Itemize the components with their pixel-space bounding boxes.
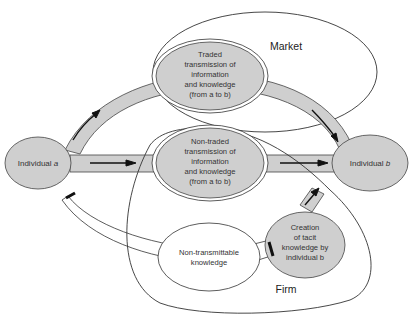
non-traded-line-2: transmission of bbox=[184, 147, 236, 156]
traded-line-5: (from a to b) bbox=[189, 90, 231, 99]
non-traded-line-5: (from a to b) bbox=[189, 177, 231, 186]
traded-line-3: information bbox=[191, 70, 229, 79]
knowledge-transmission-diagram: Individual a Individual b Traded transmi… bbox=[0, 0, 411, 323]
node-individual-b: Individual b bbox=[332, 135, 408, 191]
individual-b-label: Individual b bbox=[350, 159, 391, 168]
non-traded-line-1: Non-traded bbox=[191, 137, 229, 146]
tacit-line-2: of tacit bbox=[294, 233, 317, 242]
traded-line-1: Traded bbox=[198, 50, 222, 59]
node-non-transmittable-knowledge: Non-transmittable knowledge bbox=[158, 223, 260, 291]
firm-label: Firm bbox=[276, 283, 297, 295]
individual-a-label: Individual a bbox=[18, 159, 59, 168]
non-transmittable-line-1: Non-transmittable bbox=[179, 248, 239, 257]
tacit-line-3: knowledge by bbox=[282, 243, 329, 252]
non-transmittable-line-2: knowledge bbox=[191, 258, 227, 267]
market-label: Market bbox=[270, 40, 302, 52]
tacit-line-1: Creation bbox=[291, 223, 320, 232]
node-individual-a: Individual a bbox=[5, 137, 71, 189]
traded-line-4: and knowledge bbox=[184, 80, 235, 89]
non-traded-line-4: and knowledge bbox=[184, 167, 235, 176]
node-non-traded-transmission: Non-traded transmission of information a… bbox=[152, 125, 268, 201]
traded-line-2: transmission of bbox=[184, 60, 236, 69]
non-traded-line-3: information bbox=[191, 157, 229, 166]
node-tacit-knowledge-creation: Creation of tacit knowledge by individua… bbox=[265, 212, 345, 278]
block-bar-a bbox=[66, 193, 75, 198]
node-traded-transmission: Traded transmission of information and k… bbox=[152, 39, 268, 113]
tacit-line-4: individual b bbox=[286, 253, 324, 262]
